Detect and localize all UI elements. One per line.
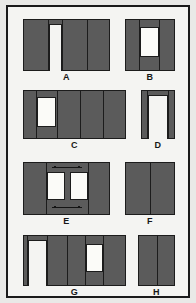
window-opening (86, 244, 103, 272)
panel-seam (85, 235, 86, 286)
figure-d: D (141, 90, 175, 152)
panel-seam (46, 162, 47, 215)
figure-g-artwork (23, 235, 126, 286)
panel-seam (57, 90, 58, 139)
window-opening (70, 172, 88, 200)
figure-c: C (23, 90, 126, 152)
figure-d-label: D (141, 140, 175, 150)
window-opening (47, 172, 65, 200)
panel-seam (67, 235, 68, 286)
figure-sheet: A B (0, 0, 196, 303)
panel-seam (47, 235, 48, 286)
figure-canvas: A B (8, 7, 188, 296)
figure-b: B (125, 19, 175, 81)
panel-seam (48, 19, 49, 71)
doorway-opening (28, 240, 47, 286)
figure-f-artwork (125, 162, 175, 215)
figure-a-label: A (23, 72, 110, 82)
panel-seam (157, 235, 158, 286)
panel-seam (103, 235, 104, 286)
figure-h-artwork (138, 235, 175, 286)
dimension-arrow-bottom-tick (54, 206, 56, 208)
figure-e-artwork (23, 162, 110, 215)
panel-seam (87, 19, 88, 71)
window-opening (140, 27, 159, 57)
figure-c-artwork (23, 90, 126, 139)
doorway-opening (49, 24, 62, 71)
wall-block (62, 19, 110, 71)
panel-seam (36, 90, 37, 139)
figure-f: F (125, 162, 175, 228)
doorway-opening (148, 95, 168, 139)
dimension-arrow-top-tick (78, 166, 80, 168)
figure-b-label: B (125, 72, 175, 82)
figure-e-label: E (23, 216, 110, 226)
dimension-arrow-top-tick (54, 166, 56, 168)
panel-seam (62, 19, 63, 71)
panel-seam (139, 19, 140, 71)
figure-e: E (23, 162, 110, 228)
wall-block (168, 90, 175, 139)
figure-h-label: H (138, 287, 175, 297)
panel-seam (80, 90, 81, 139)
dimension-arrow-bottom-tick (78, 206, 80, 208)
panel-seam (103, 90, 104, 139)
wall-block (23, 19, 49, 71)
figure-frame-border: A B (6, 5, 190, 298)
panel-seam (88, 162, 89, 215)
panel-seam (159, 19, 160, 71)
figure-g-label: G (23, 287, 126, 297)
figure-g: G (23, 235, 126, 297)
figure-c-label: C (23, 140, 126, 150)
figure-f-label: F (125, 216, 175, 226)
window-opening (37, 97, 56, 127)
wall-block (141, 90, 148, 139)
figure-d-artwork (141, 90, 175, 139)
figure-a-artwork (23, 19, 110, 71)
figure-b-artwork (125, 19, 175, 71)
figure-a: A (23, 19, 110, 81)
panel-seam (150, 162, 151, 215)
figure-h: H (138, 235, 175, 297)
